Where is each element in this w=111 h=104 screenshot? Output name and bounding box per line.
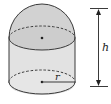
- arrow-down-icon: [96, 80, 101, 86]
- top-center-point: [41, 37, 44, 40]
- cylinder-hemisphere-diagram: r h: [0, 0, 111, 104]
- height-label: h: [102, 41, 109, 54]
- arrow-up-icon: [96, 9, 101, 15]
